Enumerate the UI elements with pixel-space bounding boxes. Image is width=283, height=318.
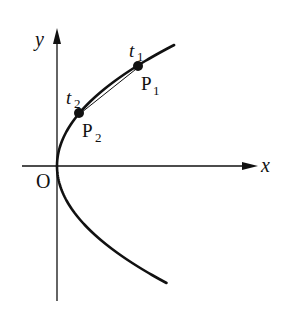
y-axis-label: y — [33, 28, 44, 51]
svg-text:P: P — [82, 120, 93, 141]
svg-text:1: 1 — [153, 83, 160, 98]
label-p2: P 2 — [82, 120, 102, 145]
svg-text:2: 2 — [74, 96, 81, 111]
svg-text:t: t — [66, 87, 72, 108]
svg-text:t: t — [129, 40, 135, 61]
label-t1: t 1 — [129, 40, 144, 64]
label-p1: P 1 — [141, 73, 160, 98]
x-axis-label: x — [260, 154, 270, 176]
diagram-canvas: y x O t 1 P 1 t 2 P 2 — [0, 0, 283, 318]
x-axis-arrow-icon — [242, 162, 258, 170]
parabola-diagram: y x O t 1 P 1 t 2 P 2 — [0, 0, 283, 318]
origin-label: O — [36, 170, 50, 192]
chord-p1-p2 — [79, 68, 138, 115]
label-t2: t 2 — [66, 87, 81, 111]
svg-text:P: P — [141, 73, 152, 94]
svg-text:2: 2 — [95, 130, 102, 145]
y-axis-arrow-icon — [53, 28, 61, 44]
svg-text:1: 1 — [137, 49, 144, 64]
parabola-curve — [57, 45, 174, 283]
